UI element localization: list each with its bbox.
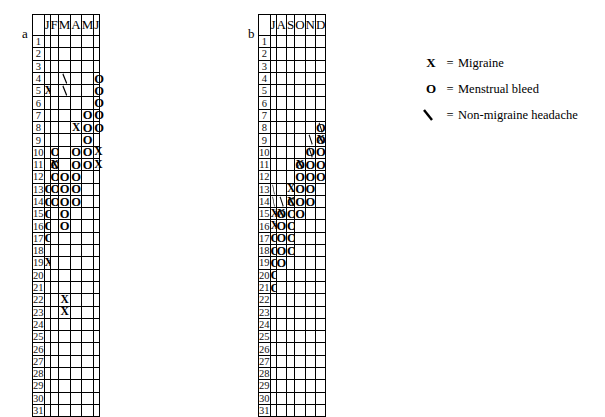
cell-b-november-4[interactable] [305, 72, 315, 84]
cell-b-december-22[interactable] [315, 294, 325, 306]
cell-b-november-27[interactable] [305, 355, 315, 367]
cell-a-may-2[interactable] [81, 48, 94, 60]
cell-b-november-29[interactable] [305, 380, 315, 392]
cell-a-may-11[interactable]: O [81, 158, 94, 170]
cell-a-april-14[interactable]: O [71, 195, 81, 207]
cell-b-august-2[interactable] [276, 48, 286, 60]
cell-a-march-22[interactable]: X [58, 294, 71, 306]
cell-b-december-30[interactable] [315, 392, 325, 404]
cell-b-december-6[interactable] [315, 97, 325, 109]
cell-b-october-24[interactable] [295, 318, 305, 330]
cell-b-december-1[interactable] [315, 36, 325, 48]
cell-b-september-25[interactable] [286, 331, 294, 343]
cell-b-august-6[interactable] [276, 97, 286, 109]
cell-a-april-20[interactable] [71, 269, 81, 281]
cell-a-may-23[interactable] [81, 306, 94, 318]
cell-a-february-22[interactable] [50, 294, 58, 306]
cell-a-april-18[interactable] [71, 245, 81, 257]
cell-b-september-24[interactable] [286, 318, 294, 330]
cell-b-october-27[interactable] [295, 355, 305, 367]
cell-a-march-23[interactable]: X [58, 306, 71, 318]
cell-a-may-31[interactable] [81, 404, 94, 416]
cell-b-august-28[interactable] [276, 368, 286, 380]
cell-a-may-16[interactable] [81, 220, 94, 232]
cell-a-april-1[interactable] [71, 36, 81, 48]
cell-a-june-23[interactable] [94, 306, 100, 318]
cell-a-may-5[interactable] [81, 85, 94, 97]
cell-a-may-26[interactable] [81, 343, 94, 355]
cell-b-november-22[interactable] [305, 294, 315, 306]
cell-b-december-24[interactable] [315, 318, 325, 330]
cell-b-august-25[interactable] [276, 331, 286, 343]
cell-a-february-5[interactable] [50, 85, 58, 97]
cell-a-may-14[interactable] [81, 195, 94, 207]
cell-b-october-7[interactable] [295, 109, 305, 121]
cell-b-november-17[interactable] [305, 232, 315, 244]
cell-a-june-8[interactable]: O [94, 122, 100, 134]
cell-b-october-28[interactable] [295, 368, 305, 380]
cell-b-august-31[interactable] [276, 404, 286, 416]
cell-b-december-29[interactable] [315, 380, 325, 392]
cell-a-april-17[interactable] [71, 232, 81, 244]
cell-a-june-29[interactable] [94, 380, 100, 392]
cell-b-august-11[interactable] [276, 158, 286, 170]
cell-a-february-18[interactable] [50, 245, 58, 257]
cell-b-august-22[interactable] [276, 294, 286, 306]
cell-a-june-25[interactable] [94, 331, 100, 343]
cell-a-april-22[interactable] [71, 294, 81, 306]
cell-a-may-24[interactable] [81, 318, 94, 330]
cell-a-march-7[interactable] [58, 109, 71, 121]
cell-a-june-19[interactable] [94, 257, 100, 269]
cell-b-november-16[interactable] [305, 220, 315, 232]
cell-b-november-7[interactable] [305, 109, 315, 121]
cell-b-december-27[interactable] [315, 355, 325, 367]
cell-a-may-27[interactable] [81, 355, 94, 367]
cell-b-september-23[interactable] [286, 306, 294, 318]
cell-a-february-1[interactable] [50, 36, 58, 48]
cell-b-september-26[interactable] [286, 343, 294, 355]
cell-b-october-26[interactable] [295, 343, 305, 355]
cell-a-february-17[interactable] [50, 232, 58, 244]
cell-a-may-29[interactable] [81, 380, 94, 392]
cell-b-september-5[interactable] [286, 85, 294, 97]
cell-b-september-18[interactable]: O [286, 245, 294, 257]
cell-b-november-6[interactable] [305, 97, 315, 109]
cell-b-september-8[interactable] [286, 122, 294, 134]
cell-a-march-1[interactable] [58, 36, 71, 48]
cell-b-december-4[interactable] [315, 72, 325, 84]
cell-b-october-29[interactable] [295, 380, 305, 392]
cell-a-february-20[interactable] [50, 269, 58, 281]
cell-b-december-13[interactable] [315, 183, 325, 195]
cell-a-june-28[interactable] [94, 368, 100, 380]
cell-a-march-5[interactable] [58, 85, 71, 97]
cell-a-june-9[interactable] [94, 134, 100, 146]
cell-a-march-6[interactable] [58, 97, 71, 109]
cell-a-may-20[interactable] [81, 269, 94, 281]
cell-b-august-24[interactable] [276, 318, 286, 330]
cell-a-june-27[interactable] [94, 355, 100, 367]
cell-b-august-13[interactable] [276, 183, 286, 195]
cell-b-november-25[interactable] [305, 331, 315, 343]
cell-a-march-21[interactable] [58, 281, 71, 293]
cell-b-december-23[interactable] [315, 306, 325, 318]
cell-b-december-3[interactable] [315, 60, 325, 72]
cell-a-april-26[interactable] [71, 343, 81, 355]
cell-a-april-6[interactable] [71, 97, 81, 109]
cell-a-february-27[interactable] [50, 355, 58, 367]
cell-b-october-1[interactable] [295, 36, 305, 48]
cell-a-june-1[interactable] [94, 36, 100, 48]
cell-b-september-10[interactable] [286, 146, 294, 158]
cell-a-march-8[interactable] [58, 122, 71, 134]
cell-b-september-22[interactable] [286, 294, 294, 306]
cell-b-november-8[interactable] [305, 122, 315, 134]
cell-b-august-12[interactable] [276, 171, 286, 183]
cell-b-october-22[interactable] [295, 294, 305, 306]
cell-a-march-4[interactable] [58, 72, 71, 84]
cell-a-april-4[interactable] [71, 72, 81, 84]
cell-a-april-24[interactable] [71, 318, 81, 330]
cell-b-august-30[interactable] [276, 392, 286, 404]
cell-a-june-15[interactable] [94, 208, 100, 220]
cell-a-june-26[interactable] [94, 343, 100, 355]
cell-b-august-27[interactable] [276, 355, 286, 367]
cell-b-november-5[interactable] [305, 85, 315, 97]
